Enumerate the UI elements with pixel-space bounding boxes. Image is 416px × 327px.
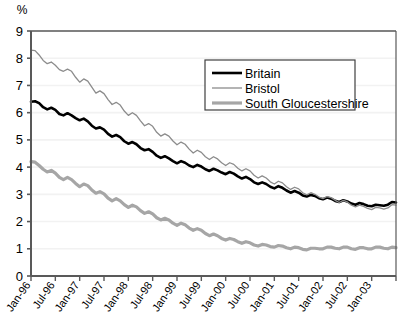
y-tick-label: 7 bbox=[16, 78, 23, 93]
x-tick-labels-group: Jan-96Jul-96Jan-97Jul-97Jan-98Jul-98Jan-… bbox=[4, 279, 374, 313]
y-axis-unit-label-group: % bbox=[17, 3, 28, 17]
y-tick-label: 1 bbox=[16, 241, 23, 256]
chart-canvas: 0123456789 Jan-96Jul-96Jan-97Jul-97Jan-9… bbox=[0, 0, 416, 327]
legend-label-south-gloucestershire: South Gloucestershire bbox=[245, 97, 369, 111]
unemployment-rate-line-chart: 0123456789 Jan-96Jul-96Jan-97Jul-97Jan-9… bbox=[0, 0, 416, 327]
legend-label-bristol: Bristol bbox=[245, 82, 280, 96]
y-tick-label: 4 bbox=[16, 160, 23, 175]
y-axis-unit-label: % bbox=[17, 3, 28, 17]
legend-group: BritainBristolSouth Gloucestershire bbox=[205, 60, 369, 111]
x-tick-label: Jan-97 bbox=[52, 279, 81, 313]
y-tick-labels-group: 0123456789 bbox=[16, 24, 23, 284]
y-tick-label: 2 bbox=[16, 214, 23, 229]
series-line-britain bbox=[31, 101, 396, 206]
x-tick-label: Jan-02 bbox=[296, 279, 325, 313]
x-tick-label: Jan-96 bbox=[4, 279, 33, 313]
x-tick-label: Jan-01 bbox=[247, 279, 276, 313]
y-tick-label: 3 bbox=[16, 187, 23, 202]
x-tick-label: Jan-99 bbox=[150, 279, 179, 313]
series-line-south-gloucestershire bbox=[31, 162, 396, 250]
x-tick-label: Jan-98 bbox=[101, 279, 130, 313]
legend-label-britain: Britain bbox=[245, 67, 280, 81]
y-tick-label: 8 bbox=[16, 51, 23, 66]
y-tick-label: 5 bbox=[16, 132, 23, 147]
y-tick-label: 6 bbox=[16, 105, 23, 120]
y-tick-label: 9 bbox=[16, 24, 23, 39]
x-tick-label: Jan-00 bbox=[198, 279, 227, 313]
x-tick-label: Jan-03 bbox=[344, 279, 373, 313]
